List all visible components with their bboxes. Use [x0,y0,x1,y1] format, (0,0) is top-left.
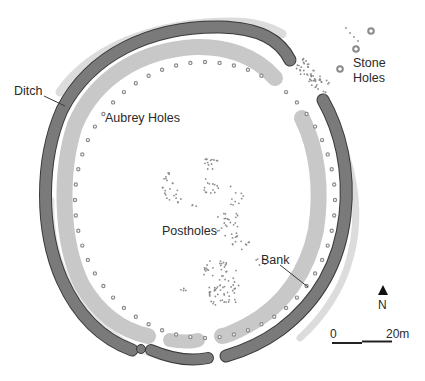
scale-start-label: 0 [330,327,337,341]
label-bank: Bank [261,253,290,267]
north-arrow-icon [378,285,388,295]
label-ditch: Ditch [14,84,42,98]
north-label: N [378,298,387,312]
label-postholes: Postholes [162,224,217,238]
bank [65,47,319,342]
label-aubrey-holes: Aubrey Holes [105,111,180,125]
entrance-postholes [296,58,330,95]
scale-end-label: 20m [386,327,409,341]
scale-bar [332,342,392,344]
stone-hole-dots [345,27,359,42]
label-stone-holes: Stone Holes [353,56,386,86]
aubrey-holes [73,60,336,339]
